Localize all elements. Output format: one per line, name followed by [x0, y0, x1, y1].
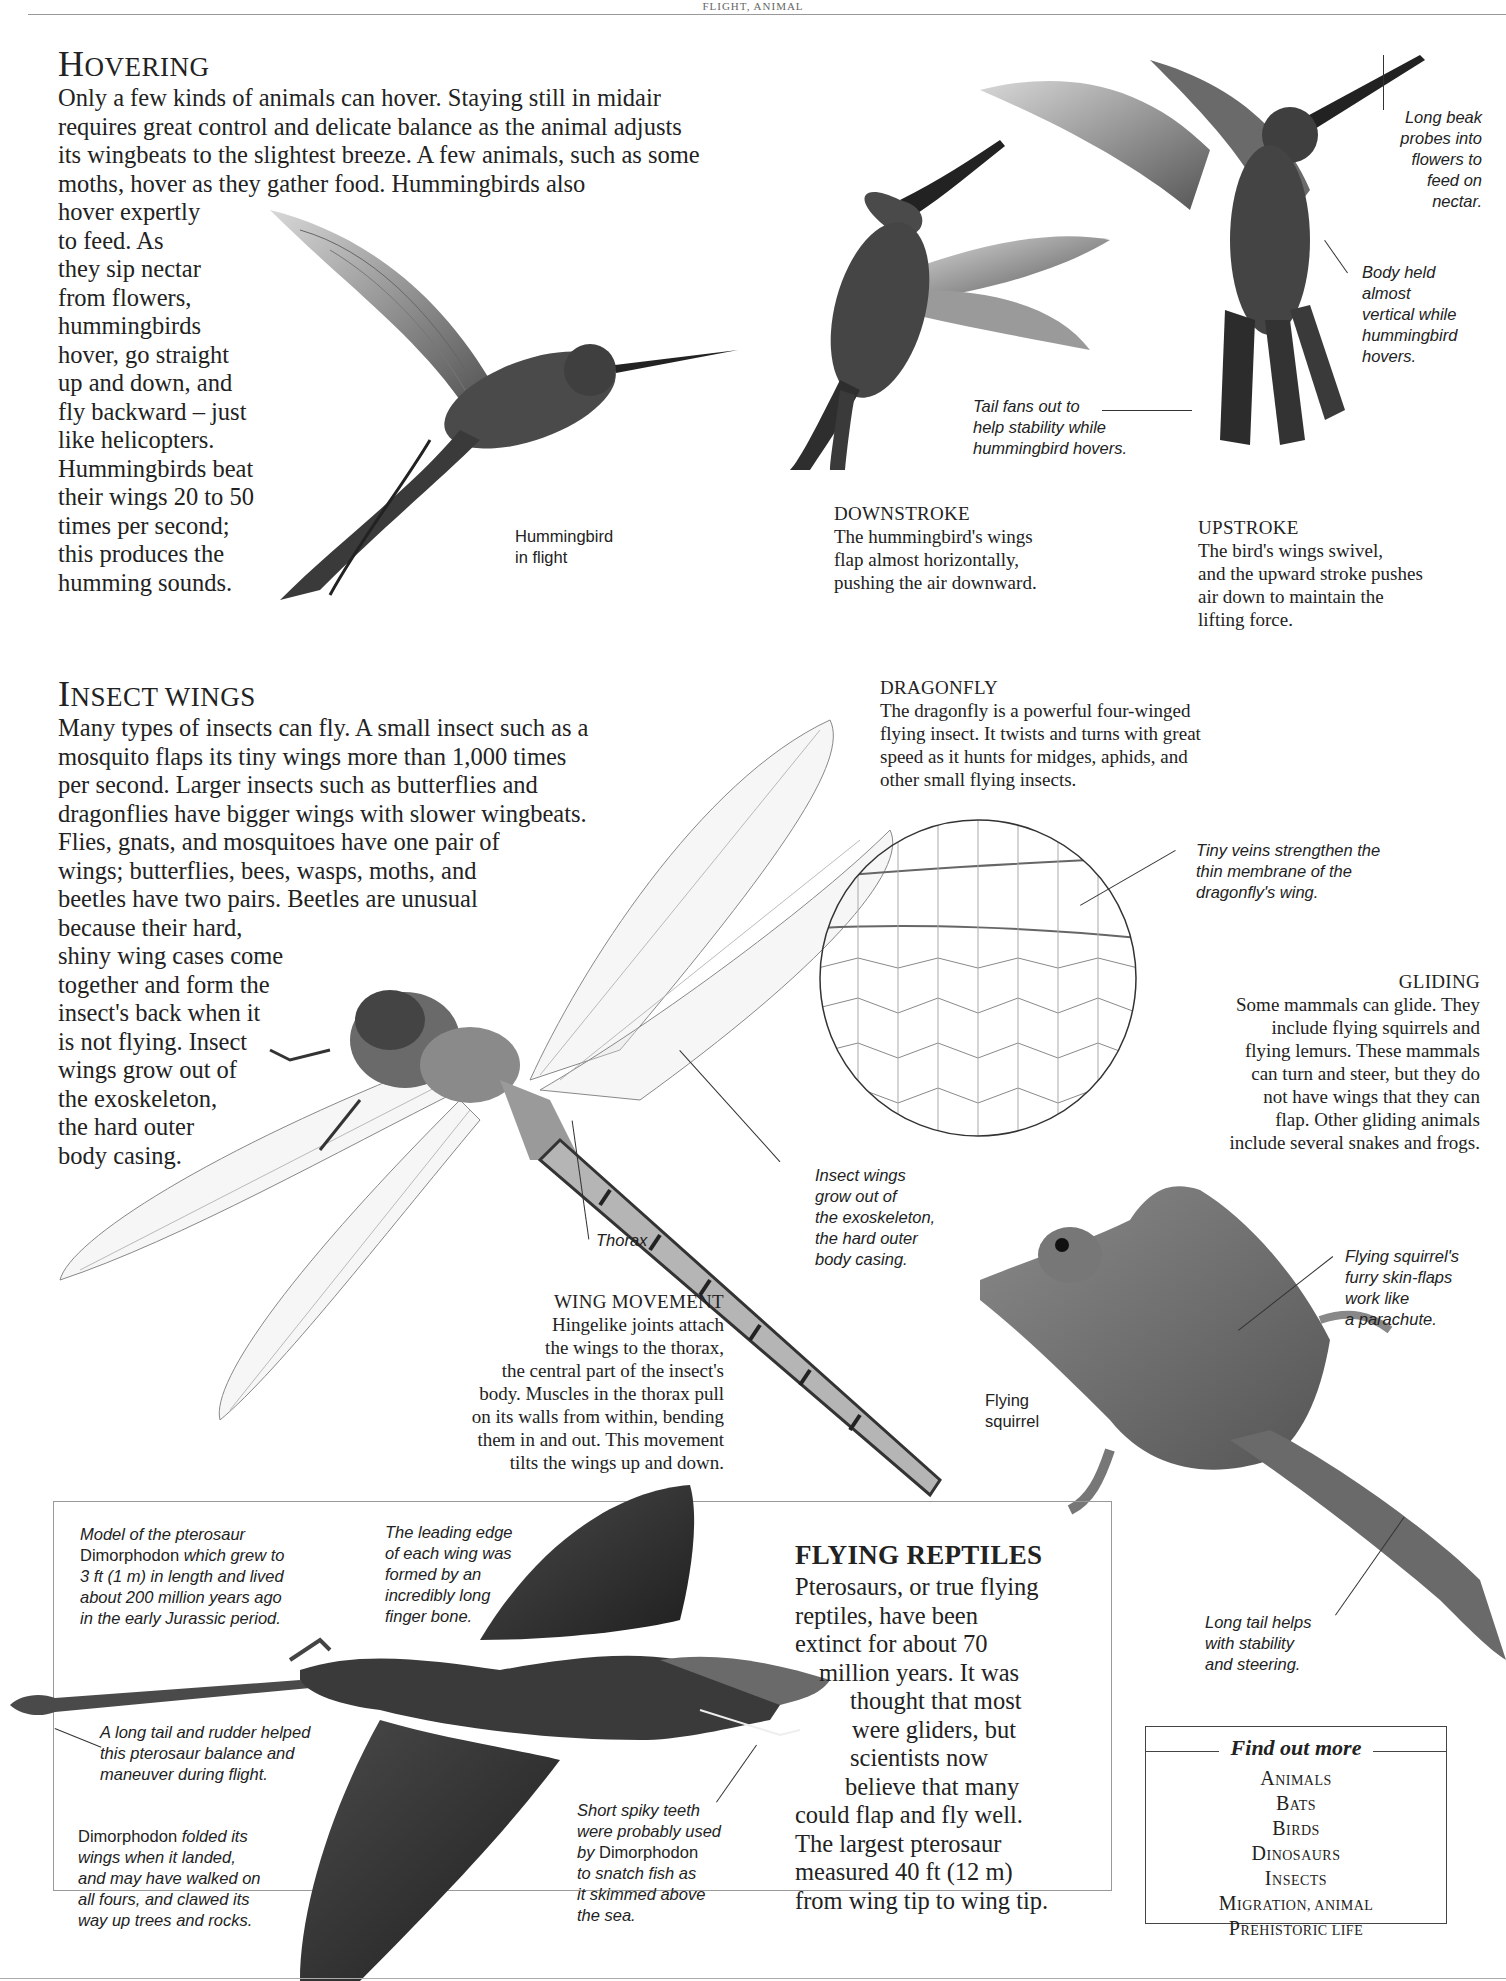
downstroke-title: DOWNSTROKE	[834, 502, 1037, 525]
hummingbird-in-flight-illustration	[260, 210, 740, 610]
find-out-more-link-birds[interactable]: Birds	[1146, 1817, 1446, 1842]
find-out-more-link-prehistoric-life[interactable]: Prehistoric life	[1146, 1917, 1446, 1942]
top-rule	[28, 14, 1506, 15]
find-out-more-list: Animals Bats Birds Dinosaurs Insects Mig…	[1146, 1767, 1446, 1942]
label-hummingbird-in-flight: Hummingbird in flight	[515, 526, 613, 568]
label-dimorphodon-folded: Dimorphodon folded its wings when it lan…	[78, 1826, 261, 1931]
find-out-more-link-animals[interactable]: Animals	[1146, 1767, 1446, 1792]
insect-wings-section: Insect wings	[58, 676, 256, 712]
label-thorax: Thorax	[596, 1230, 647, 1251]
label-short-spiky-teeth: Short spiky teeth were probably used by …	[577, 1800, 721, 1926]
find-out-more-link-insects[interactable]: Insects	[1146, 1867, 1446, 1892]
find-out-more-header: Find out more	[1146, 1735, 1446, 1761]
upstroke-block: UPSTROKE The bird's wings swivel, and th…	[1198, 516, 1423, 631]
downstroke-block: DOWNSTROKE The hummingbird's wings flap …	[834, 502, 1037, 594]
label-body-held: Body held almost vertical while hummingb…	[1362, 262, 1457, 367]
dragonfly-block: DRAGONFLY The dragonfly is a powerful fo…	[880, 676, 1201, 791]
label-long-beak: Long beak probes into flowers to feed on…	[1360, 107, 1482, 212]
bottom-rule	[0, 1978, 1506, 1979]
label-tiny-veins: Tiny veins strengthen the thin membrane …	[1196, 840, 1380, 903]
label-wings-grow: Insect wings grow out of the exoskeleton…	[815, 1165, 935, 1270]
wing-movement-title: WING MOVEMENT	[400, 1290, 724, 1313]
label-skin-flaps: Flying squirrel's furry skin-flaps work …	[1345, 1246, 1459, 1330]
running-head: FLIGHT, ANIMAL	[0, 0, 1506, 12]
flying-reptiles-text: Pterosaurs, or true flying reptiles, hav…	[795, 1573, 1095, 1915]
find-out-more-title: Find out more	[1219, 1735, 1374, 1760]
gliding-block: GLIDING Some mammals can glide. They inc…	[1140, 970, 1480, 1154]
label-long-tail: Long tail helps with stability and steer…	[1205, 1612, 1311, 1675]
upstroke-title: UPSTROKE	[1198, 516, 1423, 539]
hovering-section: Hovering	[58, 46, 210, 82]
insect-wings-title: Insect wings	[58, 676, 256, 712]
label-tail-rudder: A long tail and rudder helped this ptero…	[100, 1722, 310, 1785]
flying-reptiles-title: FLYING REPTILES	[795, 1540, 1042, 1571]
wing-movement-block: WING MOVEMENT Hingelike joints attach th…	[400, 1290, 724, 1474]
label-flying-squirrel: Flying squirrel	[985, 1390, 1039, 1432]
label-tail-fans: Tail fans out to help stability while hu…	[973, 396, 1127, 459]
dragonfly-title: DRAGONFLY	[880, 676, 1201, 699]
find-out-more-link-migration-animal[interactable]: Migration, animal	[1146, 1892, 1446, 1917]
find-out-more-box: Find out more Animals Bats Birds Dinosau…	[1145, 1726, 1447, 1924]
wing-vein-magnifier	[818, 818, 1138, 1138]
find-out-more-link-bats[interactable]: Bats	[1146, 1792, 1446, 1817]
hovering-intro: Only a few kinds of animals can hover. S…	[58, 84, 818, 198]
gliding-title: GLIDING	[1140, 970, 1480, 993]
leader-line-long-beak	[1383, 55, 1384, 110]
find-out-more-link-dinosaurs[interactable]: Dinosaurs	[1146, 1842, 1446, 1867]
hovering-title: Hovering	[58, 46, 210, 82]
